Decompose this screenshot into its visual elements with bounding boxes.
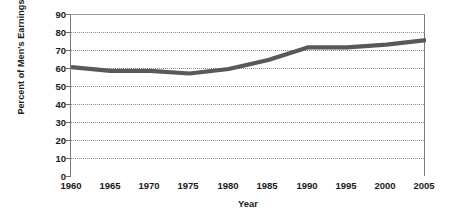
y-tick-label-70: 70 (40, 46, 66, 56)
y-tick-label-50: 50 (40, 82, 66, 92)
x-tick-label-2005: 2005 (413, 180, 434, 191)
x-tick-label-1985: 1985 (256, 180, 277, 191)
y-axis-title: Percent of Men's Earnings (16, 0, 26, 142)
plot-area (70, 14, 425, 176)
y-tick-label-30: 30 (40, 118, 66, 128)
x-tick-label-1970: 1970 (138, 180, 159, 191)
x-tick-label-1975: 1975 (177, 180, 198, 191)
x-axis-tick-labels: 1960 1965 1970 1975 1980 1985 1990 1995 … (0, 180, 461, 196)
earnings-ratio-line-chart: Percent of Men's Earnings 90 80 70 60 50… (0, 0, 461, 218)
x-axis-title: Year (70, 198, 426, 209)
y-tick-label-90: 90 (40, 10, 66, 20)
y-tick-label-40: 40 (40, 100, 66, 110)
data-series-line (71, 15, 426, 177)
x-tick-label-1960: 1960 (60, 180, 81, 191)
y-tick-label-60: 60 (40, 64, 66, 74)
y-tick-label-20: 20 (40, 136, 66, 146)
x-tick-label-2000: 2000 (374, 180, 395, 191)
x-tick-label-1980: 1980 (217, 180, 238, 191)
x-tick-label-1995: 1995 (335, 180, 356, 191)
x-tick-label-1990: 1990 (296, 180, 317, 191)
y-tick-label-10: 10 (40, 154, 66, 164)
x-tick-label-1965: 1965 (99, 180, 120, 191)
y-tick-label-80: 80 (40, 28, 66, 38)
